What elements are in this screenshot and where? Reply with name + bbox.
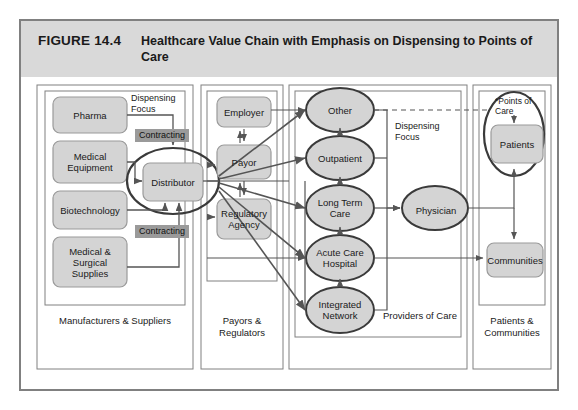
node-shape-outpatient [306, 136, 374, 180]
annotation-dispensing-focus-left: Dispensing Focus [131, 93, 193, 115]
node-shape-medical-equipment [53, 141, 127, 183]
node-shape-physician [402, 186, 468, 230]
annotation-contracting-bottom: Contracting [135, 225, 189, 238]
annotation-dispensing-focus-right: Dispensing Focus [395, 121, 457, 143]
node-shape-regulatory-agency [217, 199, 271, 239]
column-caption-patients: Patients & Communities [479, 315, 545, 338]
node-shape-long-term-care [306, 185, 374, 231]
node-shape-medical-surgical-supplies [53, 237, 127, 287]
node-shape-pharma [53, 97, 127, 133]
node-shape-integrated-network [306, 287, 374, 333]
figure-title: Healthcare Value Chain with Emphasis on … [141, 33, 541, 65]
node-shape-employer [217, 97, 271, 127]
diagram-canvas: Pharma Medical Equipment Biotechnology M… [21, 77, 557, 389]
connector-integrated-right-bus [374, 208, 387, 310]
node-shape-payor [217, 145, 271, 179]
diagram-svg [21, 77, 557, 389]
node-shape-patients [491, 125, 543, 163]
node-shape-acute-care-hospital [306, 235, 374, 281]
node-shape-distributor [143, 163, 203, 201]
annotation-points-of-care: *Points of Care [495, 96, 539, 116]
annotation-contracting-top: Contracting [135, 129, 189, 142]
node-shape-biotechnology [53, 191, 127, 229]
node-shape-other [306, 88, 374, 132]
column-caption-payors: Payors & Regulators [207, 315, 277, 338]
node-shape-communities [487, 243, 543, 277]
column-caption-providers: Providers of Care [377, 310, 463, 322]
figure-number: FIGURE 14.4 [38, 33, 121, 48]
column-caption-manufacturers: Manufacturers & Suppliers [45, 315, 185, 327]
figure-container: FIGURE 14.4 Healthcare Value Chain with … [19, 19, 559, 391]
